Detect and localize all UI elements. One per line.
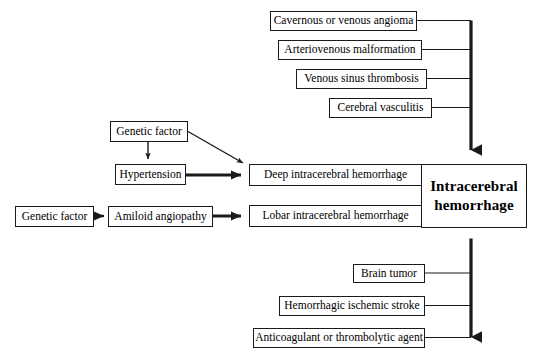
node-amiloid-angiopathy[interactable]: Amiloid angiopathy (108, 206, 213, 227)
node-cerebral-vasculitis[interactable]: Cerebral vasculitis (329, 98, 432, 118)
node-genetic-factor-upper[interactable]: Genetic factor (110, 121, 188, 142)
genetic-to-deep-arrow (188, 132, 243, 164)
node-brain-tumor[interactable]: Brain tumor (353, 264, 425, 283)
node-label: Lobar intracerebral hemorrhage (262, 209, 408, 222)
node-label: Anticoagulant or thrombolytic agent (255, 331, 423, 344)
node-label: Deep intracerebral hemorrhage (264, 168, 407, 181)
node-label: Genetic factor (22, 210, 87, 223)
node-label: Cavernous or venous angioma (274, 14, 414, 27)
node-label: Arteriovenous malformation (284, 43, 415, 56)
node-cavernous-or-venous-angioma[interactable]: Cavernous or venous angioma (270, 11, 417, 31)
node-label: Brain tumor (361, 267, 417, 280)
node-label: Genetic factor (116, 125, 181, 138)
node-label: Venous sinus thrombosis (304, 72, 418, 85)
node-deep-intracerebral-hemorrhage[interactable]: Deep intracerebral hemorrhage (249, 164, 422, 186)
bottom-connectors (425, 273, 471, 338)
node-lobar-intracerebral-hemorrhage[interactable]: Lobar intracerebral hemorrhage (249, 205, 422, 227)
node-genetic-factor-lower[interactable]: Genetic factor (15, 206, 94, 227)
node-venous-sinus-thrombosis[interactable]: Venous sinus thrombosis (296, 69, 427, 89)
node-anticoagulant-or-thrombolytic-agent[interactable]: Anticoagulant or thrombolytic agent (253, 328, 425, 348)
node-hemorrhagic-ischemic-stroke[interactable]: Hemorrhagic ischemic stroke (279, 296, 425, 316)
node-arteriovenous-malformation[interactable]: Arteriovenous malformation (278, 40, 422, 60)
node-label: Hypertension (120, 168, 182, 181)
node-label: Amiloid angiopathy (114, 210, 206, 223)
top-connectors (417, 21, 471, 108)
node-label: Hemorrhagic ischemic stroke (284, 299, 419, 312)
node-label-line1: Intracerebral (430, 177, 518, 196)
node-hypertension[interactable]: Hypertension (115, 164, 186, 185)
node-intracerebral-hemorrhage-main[interactable]: Intracerebral hemorrhage (421, 164, 527, 228)
node-label-line2: hemorrhage (430, 196, 518, 215)
node-label: Cerebral vasculitis (338, 101, 424, 114)
flowchart-diagram: Cavernous or venous angioma Arteriovenou… (0, 0, 536, 361)
